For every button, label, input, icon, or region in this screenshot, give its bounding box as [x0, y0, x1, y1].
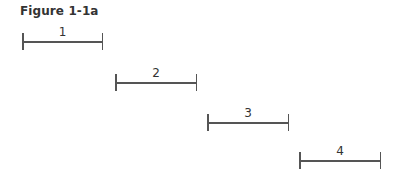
- segment-label: 3: [207, 106, 289, 120]
- segment-4: 4: [299, 152, 381, 170]
- segment-line: [115, 82, 197, 84]
- right-tick: [380, 152, 382, 169]
- segment-3: 3: [207, 114, 289, 132]
- left-tick: [115, 74, 117, 91]
- figure-title: Figure 1-1a: [20, 4, 99, 18]
- right-tick: [196, 74, 198, 91]
- segment-line: [22, 41, 103, 43]
- left-tick: [207, 114, 209, 131]
- right-tick: [288, 114, 290, 131]
- segment-label: 1: [22, 25, 103, 39]
- segment-1: 1: [22, 33, 103, 51]
- segment-label: 4: [299, 144, 381, 158]
- segment-2: 2: [115, 74, 197, 92]
- segment-label: 2: [115, 66, 197, 80]
- segment-line: [207, 122, 289, 124]
- left-tick: [22, 33, 24, 50]
- right-tick: [102, 33, 104, 50]
- segment-line: [299, 160, 381, 162]
- left-tick: [299, 152, 301, 169]
